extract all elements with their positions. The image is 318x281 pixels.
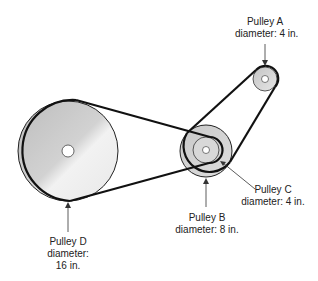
pulley-a: [253, 67, 277, 91]
label-pulley-c: Pulley C diameter: 4 in.: [238, 184, 308, 208]
pulley-b-diameter: diameter: 8 in.: [172, 224, 242, 236]
pulley-d-diameter-value: 16 in.: [38, 260, 98, 272]
pulley-c-diameter: diameter: 4 in.: [238, 196, 308, 208]
pulley-d-name: Pulley D: [38, 236, 98, 248]
arrow-a: [262, 44, 268, 66]
pulley-d-diameter-label: diameter:: [38, 248, 98, 260]
pulley-c: [193, 137, 219, 163]
pulley-c-name: Pulley C: [238, 184, 308, 196]
pulley-a-name: Pulley A: [235, 16, 295, 28]
pulley-d: [18, 101, 118, 201]
arrow-d: [65, 202, 71, 232]
pulley-b-name: Pulley B: [172, 212, 242, 224]
label-pulley-a: Pulley A diameter: 4 in.: [235, 16, 295, 40]
pulley-a-diameter: diameter: 4 in.: [235, 28, 295, 40]
arrow-b: [203, 178, 209, 207]
label-pulley-d: Pulley D diameter: 16 in.: [38, 236, 98, 272]
label-pulley-b: Pulley B diameter: 8 in.: [172, 212, 242, 236]
